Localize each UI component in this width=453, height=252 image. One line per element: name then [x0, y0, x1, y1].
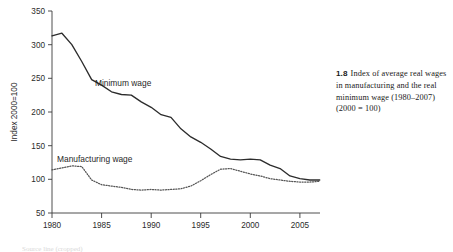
y-tick-label-350: 350	[31, 7, 45, 16]
x-tick-label-2000: 2000	[241, 221, 260, 230]
y-tick-label-50: 50	[36, 209, 46, 218]
figure-container: 350 300 250 200 150 100 50 1980 198	[0, 0, 453, 252]
x-tick-label-1990: 1990	[142, 221, 161, 230]
series-label-manufacturing-wage: Manufacturing wage	[57, 154, 133, 164]
series-line-manufacturing-wage	[52, 166, 320, 190]
line-chart: 350 300 250 200 150 100 50 1980 198	[0, 0, 330, 240]
x-tick-label-1980: 1980	[43, 221, 62, 230]
y-tick-label-250: 250	[31, 74, 45, 83]
y-axis-title: Index 2000=100	[10, 82, 19, 141]
y-axis-ticks: 350 300 250 200 150 100 50	[31, 7, 52, 218]
x-tick-label-2005: 2005	[291, 221, 310, 230]
x-tick-label-1995: 1995	[192, 221, 211, 230]
caption-number: 1.8	[336, 69, 348, 78]
chart-plot-area: 350 300 250 200 150 100 50 1980 198	[0, 0, 330, 240]
y-tick-label-100: 100	[31, 175, 45, 184]
y-tick-label-300: 300	[31, 41, 45, 50]
caption-text: Index of average real wages in manufactu…	[336, 69, 446, 113]
y-tick-label-150: 150	[31, 142, 45, 151]
source-strip: Source line (cropped)	[22, 245, 322, 252]
figure-caption: 1.8Index of average real wages in manufa…	[336, 68, 448, 115]
y-tick-label-200: 200	[31, 108, 45, 117]
x-axis-ticks: 1980 1985 1990 1995 2000 2005	[43, 213, 310, 230]
x-tick-label-1985: 1985	[92, 221, 111, 230]
series-label-minimum-wage: Minimum wage	[95, 78, 152, 88]
